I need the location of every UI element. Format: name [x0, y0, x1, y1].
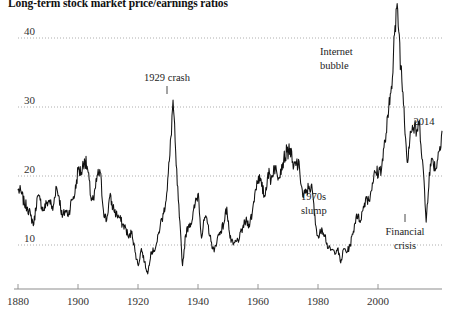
x-axis-label-1920: 1920 [127, 295, 150, 307]
annotation-financial-crisis-line1: Financial [385, 226, 424, 237]
y-axis-label-30: 30 [24, 94, 36, 106]
annotation-financial-crisis-line2: crisis [394, 240, 416, 251]
x-axis-label-1880: 1880 [7, 295, 30, 307]
y-axis-label-40: 40 [24, 25, 36, 37]
chart-plot-area: 40 30 20 10 1880 1900 1920 1940 1960 198… [0, 0, 451, 323]
annotation-1970s-slump-line1: 1970s [301, 191, 326, 202]
annotation-2014: 2014 [414, 116, 436, 127]
annotation-1929-crash: 1929 crash [144, 72, 191, 83]
annotation-1970s-slump-line2: slump [301, 205, 327, 216]
x-axis-label-1960: 1960 [247, 295, 270, 307]
y-axis-label-10: 10 [24, 232, 36, 244]
x-axis-label-1940: 1940 [187, 295, 210, 307]
y-axis-label-20: 20 [24, 163, 36, 175]
annotation-internet-bubble-line2: bubble [320, 60, 349, 71]
x-axis-label-1900: 1900 [67, 295, 90, 307]
annotation-internet-bubble-line1: Internet [320, 46, 353, 57]
x-axis-label-1980: 1980 [307, 295, 330, 307]
chart-container: Long-term stock market price/earnings ra… [0, 0, 451, 323]
x-axis-label-2000: 2000 [367, 295, 390, 307]
price-earnings-ratio-line [18, 4, 442, 274]
